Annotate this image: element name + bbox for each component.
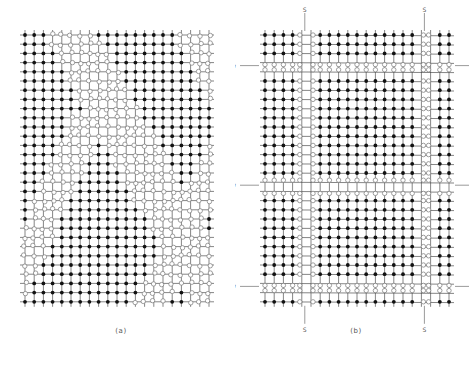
caption-b: (b) (336, 327, 376, 335)
panel-a: (a) (0, 0, 235, 373)
wall-marker: w (235, 282, 236, 289)
lattice-grid-a (0, 0, 235, 373)
caption-a: (a) (101, 327, 141, 335)
slip-marker: S (422, 6, 426, 13)
panel-b: SSSSwwwwww (b) (235, 0, 471, 373)
slip-marker: S (303, 326, 307, 333)
slip-marker: S (422, 326, 426, 333)
lattice-grid-b: SSSSwwwwww (235, 0, 471, 373)
slip-marker: S (303, 6, 307, 13)
wall-marker: w (235, 181, 236, 188)
wall-marker: w (235, 62, 236, 69)
